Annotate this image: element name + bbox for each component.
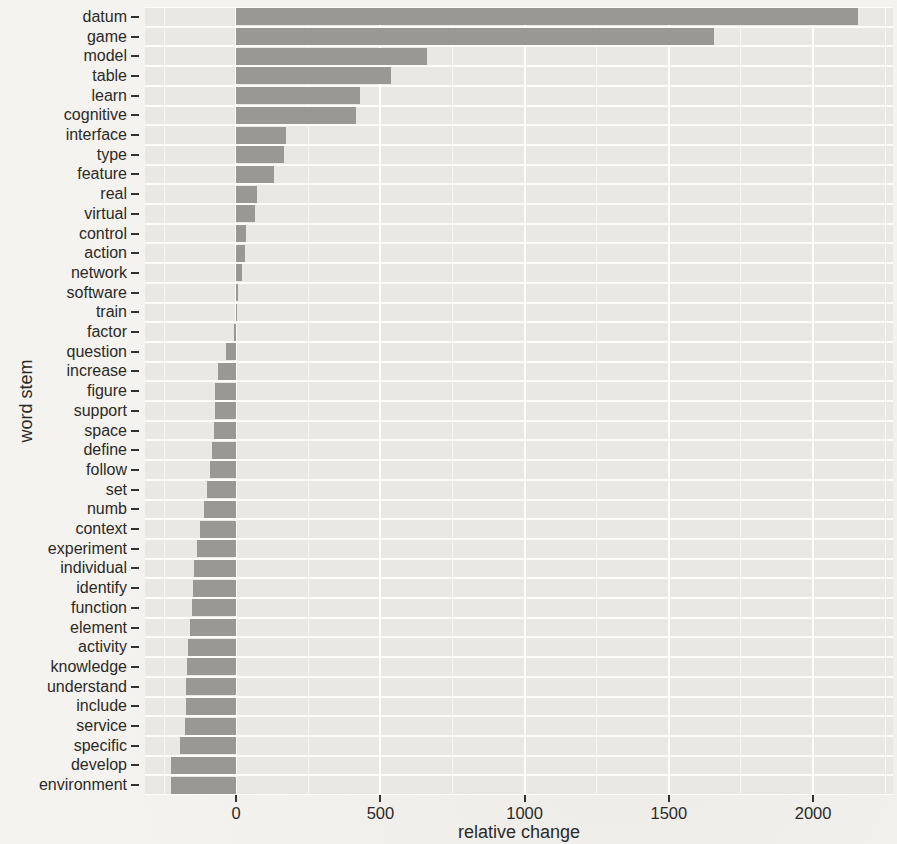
y-tick-label: question <box>67 344 128 360</box>
y-tick-label: activity <box>78 639 127 655</box>
bar-question <box>226 343 236 360</box>
y-tick-mark <box>131 784 139 786</box>
x-tick-mark <box>235 795 237 802</box>
y-tick-mark <box>131 95 139 97</box>
bar-space <box>214 422 236 439</box>
y-tick-mark <box>131 508 139 510</box>
y-tick-mark <box>131 745 139 747</box>
y-tick-mark <box>131 764 139 766</box>
y-tick-mark <box>131 233 139 235</box>
y-tick-label: follow <box>86 462 127 478</box>
y-tick-mark <box>131 469 139 471</box>
h-gridline <box>145 400 893 402</box>
h-gridline <box>145 518 893 520</box>
y-axis-labels: datumgamemodeltablelearncognitiveinterfa… <box>0 7 129 795</box>
y-tick-label: datum <box>83 9 127 25</box>
h-gridline <box>145 656 893 658</box>
y-tick-mark <box>131 213 139 215</box>
bar-activity <box>188 639 236 656</box>
h-gridline <box>145 499 893 501</box>
bar-knowledge <box>187 658 236 675</box>
y-tick-label: software <box>67 285 127 301</box>
h-gridline <box>145 676 893 678</box>
bar-learn <box>236 87 360 104</box>
bar-individual <box>194 560 236 577</box>
h-gridline <box>145 302 893 304</box>
bar-control <box>236 225 246 242</box>
y-tick-label: identify <box>76 580 127 596</box>
h-gridline <box>145 439 893 441</box>
y-tick-mark <box>131 370 139 372</box>
h-gridline <box>145 755 893 757</box>
y-tick-mark <box>131 311 139 313</box>
y-tick-label: interface <box>66 127 127 143</box>
bar-set <box>207 481 236 498</box>
word-stem-relative-change-chart: word stem datumgamemodeltablelearncognit… <box>0 0 897 844</box>
y-tick-mark <box>131 193 139 195</box>
v-gridline-major <box>668 7 670 795</box>
y-tick-label: network <box>71 265 127 281</box>
x-axis-title: relative change <box>145 822 893 843</box>
bar-understand <box>186 678 236 695</box>
h-gridline <box>145 341 893 343</box>
bar-service <box>185 718 236 735</box>
h-gridline <box>145 617 893 619</box>
h-gridline <box>145 597 893 599</box>
y-tick-label: experiment <box>48 541 127 557</box>
bar-model <box>236 48 426 65</box>
y-tick-mark <box>131 548 139 550</box>
y-tick-mark <box>131 173 139 175</box>
h-gridline <box>145 321 893 323</box>
y-tick-mark <box>131 725 139 727</box>
y-tick-label: model <box>83 48 127 64</box>
bar-environment <box>171 777 236 794</box>
y-tick-label: game <box>87 29 127 45</box>
y-tick-label: figure <box>87 383 127 399</box>
v-gridline-major <box>812 7 814 795</box>
v-gridline-minor <box>885 7 886 795</box>
h-gridline <box>145 420 893 422</box>
y-tick-label: include <box>76 698 127 714</box>
y-tick-label: control <box>79 226 127 242</box>
h-gridline <box>145 538 893 540</box>
y-tick-label: action <box>84 245 127 261</box>
y-tick-label: space <box>84 423 127 439</box>
y-tick-label: define <box>83 442 127 458</box>
y-tick-label: function <box>71 600 127 616</box>
bar-include <box>186 698 236 715</box>
y-tick-label: element <box>70 620 127 636</box>
x-tick-mark <box>668 795 670 802</box>
bar-table <box>236 67 391 84</box>
x-tick-label: 500 <box>335 804 425 823</box>
y-tick-mark <box>131 666 139 668</box>
plot-panel <box>145 7 893 795</box>
y-tick-label: train <box>96 304 127 320</box>
y-tick-label: numb <box>87 501 127 517</box>
y-tick-mark <box>131 292 139 294</box>
y-tick-mark <box>131 528 139 530</box>
y-tick-mark <box>131 430 139 432</box>
h-gridline <box>145 774 893 776</box>
bar-datum <box>236 8 858 25</box>
bar-follow <box>210 461 236 478</box>
h-gridline <box>145 577 893 579</box>
x-tick-label: 1000 <box>480 804 570 823</box>
v-gridline-major <box>235 7 237 795</box>
h-gridline <box>145 262 893 264</box>
y-tick-mark <box>131 627 139 629</box>
y-tick-mark <box>131 686 139 688</box>
bar-action <box>236 245 245 262</box>
y-tick-mark <box>131 16 139 18</box>
h-gridline <box>145 242 893 244</box>
y-tick-label: type <box>97 147 127 163</box>
bar-interface <box>236 127 286 144</box>
y-tick-label: real <box>100 186 127 202</box>
v-gridline-minor <box>164 7 165 795</box>
h-gridline <box>145 636 893 638</box>
y-tick-label: factor <box>87 324 127 340</box>
h-gridline <box>145 459 893 461</box>
y-tick-label: virtual <box>84 206 127 222</box>
v-gridline-major <box>379 7 381 795</box>
bar-virtual <box>236 205 255 222</box>
h-gridline <box>145 794 893 795</box>
